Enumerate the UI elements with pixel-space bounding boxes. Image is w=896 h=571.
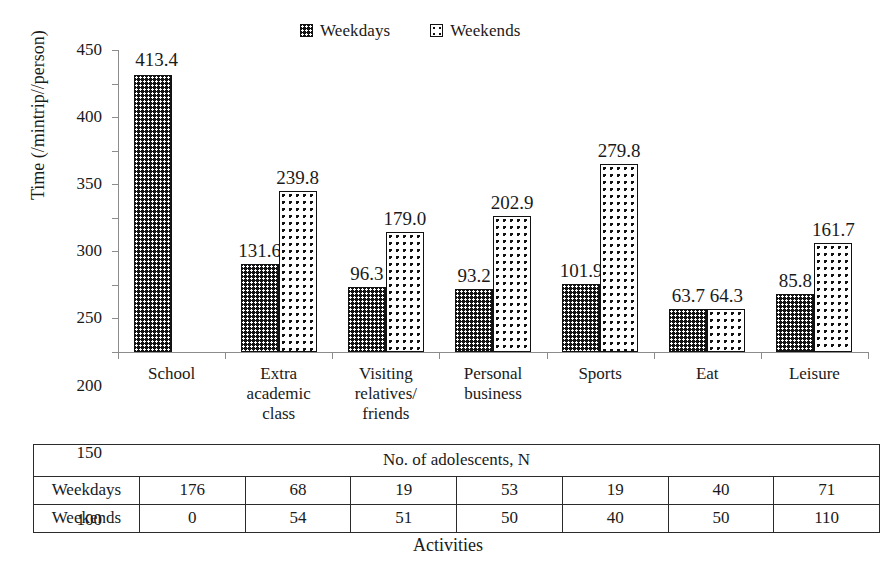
bar-value-label: 161.7: [812, 220, 855, 239]
x-axis-title: Activities: [0, 535, 896, 556]
bar-weekends-6: [814, 243, 852, 352]
table-row: Weekdays176681953194071: [34, 477, 880, 505]
x-axis-category-label-5: Eat: [654, 364, 761, 384]
legend-label-weekdays: Weekdays: [320, 22, 390, 39]
bar-value-label: 64.3: [710, 286, 743, 305]
x-axis-category-label-0: School: [118, 364, 225, 384]
table-cell: 68: [245, 477, 351, 505]
x-axis-tick: [118, 352, 119, 359]
category-label-line: business: [439, 384, 546, 404]
table-cell: 19: [562, 477, 668, 505]
x-axis-tick: [332, 352, 333, 359]
y-axis-tick: 50: [112, 318, 118, 319]
table-cell: 19: [351, 477, 457, 505]
x-axis-tick: [439, 352, 440, 359]
x-axis-category-label-4: Sports: [547, 364, 654, 384]
x-axis-tick: [547, 352, 548, 359]
x-axis-category-label-6: Leisure: [761, 364, 868, 384]
bar-value-label: 413.4: [135, 50, 178, 69]
bar-value-label: 63.7: [672, 286, 705, 305]
y-axis-tick-label: 250: [77, 308, 103, 328]
table-cell: 50: [668, 505, 774, 533]
bar-value-label: 202.9: [491, 193, 534, 212]
bar-weekends-4: [600, 164, 638, 352]
chart-figure: Weekdays Weekends Time (/mintrip//person…: [0, 0, 896, 571]
table-cell: 71: [774, 477, 880, 505]
x-axis-tick: [225, 352, 226, 359]
x-axis-tick: [654, 352, 655, 359]
adolescents-count-table: No. of adolescents, N Weekdays1766819531…: [33, 444, 880, 533]
category-label-line: academic: [225, 384, 332, 404]
legend-entry-weekends: Weekends: [430, 22, 520, 39]
category-label-line: Extra: [225, 364, 332, 384]
category-label-line: class: [225, 404, 332, 424]
bar-weekends-1: [279, 191, 317, 352]
table-row: Weekends05451504050110: [34, 505, 880, 533]
bar-weekends-2: [386, 232, 424, 352]
category-label-line: Leisure: [761, 364, 868, 384]
x-axis-tick: [761, 352, 762, 359]
bar-weekends-5: [707, 309, 745, 352]
x-axis-line: [118, 352, 868, 353]
bar-weekdays-4: [562, 284, 600, 352]
legend-entry-weekdays: Weekdays: [300, 22, 390, 39]
y-axis-tick-label: 300: [77, 241, 103, 261]
table-row-header: Weekends: [34, 505, 140, 533]
y-axis-line: [118, 50, 119, 352]
x-axis-category-label-2: Visitingrelatives/friends: [332, 364, 439, 424]
bar-value-label: 131.6: [238, 241, 281, 260]
x-axis-category-label-1: Extraacademicclass: [225, 364, 332, 424]
category-label-line: Eat: [654, 364, 761, 384]
y-axis-tick: 300: [112, 151, 118, 152]
category-label-line: School: [118, 364, 225, 384]
category-label-line: Personal: [439, 364, 546, 384]
x-axis-category-label-3: Personalbusiness: [439, 364, 546, 404]
bar-value-label: 85.8: [779, 271, 812, 290]
table-cell: 54: [245, 505, 351, 533]
plot-area: 450400350300250200150100500 413.4131.696…: [118, 50, 868, 352]
table-title: No. of adolescents, N: [34, 445, 880, 477]
y-axis-tick-label: 200: [77, 376, 103, 396]
y-axis-tick: 150: [112, 251, 118, 252]
category-label-line: relatives/: [332, 384, 439, 404]
table-cell: 51: [351, 505, 457, 533]
bar-value-label: 279.8: [598, 141, 641, 160]
category-label-line: Sports: [547, 364, 654, 384]
bar-weekdays-6: [776, 294, 814, 352]
legend-label-weekends: Weekends: [450, 22, 520, 39]
bar-weekdays-5: [669, 309, 707, 352]
bar-weekdays-3: [455, 289, 493, 352]
bar-value-label: 101.9: [560, 261, 603, 280]
table-cell: 53: [457, 477, 563, 505]
y-axis-tick: 450: [112, 50, 118, 51]
table-row-header: Weekdays: [34, 477, 140, 505]
bar-weekdays-2: [348, 287, 386, 352]
x-axis-tick: [868, 352, 869, 359]
category-label-line: Visiting: [332, 364, 439, 384]
y-axis-tick-label: 350: [77, 174, 103, 194]
bar-value-label: 96.3: [350, 264, 383, 283]
table-cell: 176: [139, 477, 245, 505]
bar-weekends-3: [493, 216, 531, 352]
table-cell: 40: [668, 477, 774, 505]
y-axis-title: Time (/mintrip//person): [28, 30, 49, 200]
bar-value-label: 93.2: [457, 266, 490, 285]
y-axis-tick: 350: [112, 117, 118, 118]
table-cell: 40: [562, 505, 668, 533]
legend-swatch-weekdays-icon: [300, 24, 313, 37]
table-cell: 50: [457, 505, 563, 533]
y-axis-tick: 200: [112, 218, 118, 219]
y-axis-tick: 400: [112, 84, 118, 85]
bar-weekdays-1: [241, 264, 279, 352]
chart-legend: Weekdays Weekends: [300, 22, 521, 39]
table-title-row: No. of adolescents, N: [34, 445, 880, 477]
legend-swatch-weekends-icon: [430, 24, 443, 37]
bar-value-label: 179.0: [383, 209, 426, 228]
y-axis-tick: 100: [112, 285, 118, 286]
category-label-line: friends: [332, 404, 439, 424]
table-body: Weekdays176681953194071Weekends054515040…: [34, 477, 880, 533]
bar-value-label: 239.8: [276, 168, 319, 187]
bar-weekdays-0: [134, 75, 172, 352]
y-axis-tick: 250: [112, 184, 118, 185]
y-axis-tick-label: 400: [77, 107, 103, 127]
